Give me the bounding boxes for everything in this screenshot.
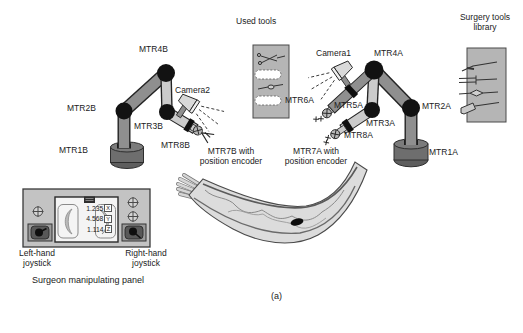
library-board — [467, 48, 506, 122]
label-mtr6a: MTR6A — [285, 96, 314, 106]
right-joystick[interactable] — [122, 224, 146, 241]
left-joystick[interactable] — [28, 224, 52, 241]
figure-canvas: MTR4B Camera2 MTR2B MTR3B MTR8B MTR1B MT… — [0, 0, 523, 333]
label-camera2: Camera2 — [175, 86, 210, 96]
label-left-joystick: Left-hand joystick — [3, 249, 71, 268]
readout-x-axis: X — [104, 204, 112, 212]
label-mtr7a: MTR7A with position encoder — [279, 147, 353, 166]
readout-z-value: 1.114 — [87, 226, 104, 233]
used-capsule-icon — [255, 70, 281, 79]
label-mtr2a: MTR2A — [422, 102, 451, 112]
joint-mtr4b — [157, 64, 175, 82]
label-mtr5a: MTR5A — [334, 101, 363, 111]
joint-mtr2a — [402, 99, 420, 117]
joint-mtr3a — [364, 102, 380, 118]
label-mtr7b: MTR7B with position encoder — [194, 147, 268, 166]
readout-z: 1.114 Z — [66, 225, 112, 233]
label-camera1: Camera1 — [316, 49, 351, 59]
label-mtr1a: MTR1A — [429, 148, 458, 158]
label-mtr3a: MTR3A — [366, 119, 395, 129]
label-panel-caption: Surgeon manipulating panel — [32, 276, 144, 286]
used-tools-panel — [253, 45, 289, 118]
surgery-tools-library-panel — [459, 48, 506, 122]
figure-label: (a) — [271, 292, 282, 302]
readout-y: 4.568 Y — [66, 215, 112, 223]
used-capsule2-icon — [255, 96, 281, 105]
label-mtr4a: MTR4A — [374, 49, 403, 59]
readout-x-value: 1.235 — [86, 205, 103, 212]
label-surgery-tools-library: Surgery tools library — [451, 13, 519, 32]
display-icon — [84, 197, 95, 204]
label-mtr8a: MTR8A — [344, 131, 373, 141]
joint-mtr3b — [159, 104, 175, 120]
label-mtr8b: MTR8B — [161, 141, 190, 151]
joint-mtr4a — [365, 61, 384, 80]
patient-limb — [178, 162, 367, 243]
readout-y-axis: Y — [104, 215, 112, 223]
label-mtr1b: MTR1B — [59, 146, 88, 156]
readout-x: 1.235 X — [66, 204, 112, 212]
readout-z-axis: Z — [105, 225, 112, 233]
label-mtr2b: MTR2B — [67, 104, 96, 114]
readout-y-value: 4.568 — [86, 215, 103, 222]
label-mtr3b: MTR3B — [134, 122, 163, 132]
limb-outline — [189, 162, 367, 243]
label-right-joystick: Right-hand joystick — [112, 249, 180, 268]
label-used-tools: Used tools — [236, 17, 276, 27]
joint-mtr2b — [116, 103, 133, 120]
label-mtr4b: MTR4B — [139, 45, 168, 55]
